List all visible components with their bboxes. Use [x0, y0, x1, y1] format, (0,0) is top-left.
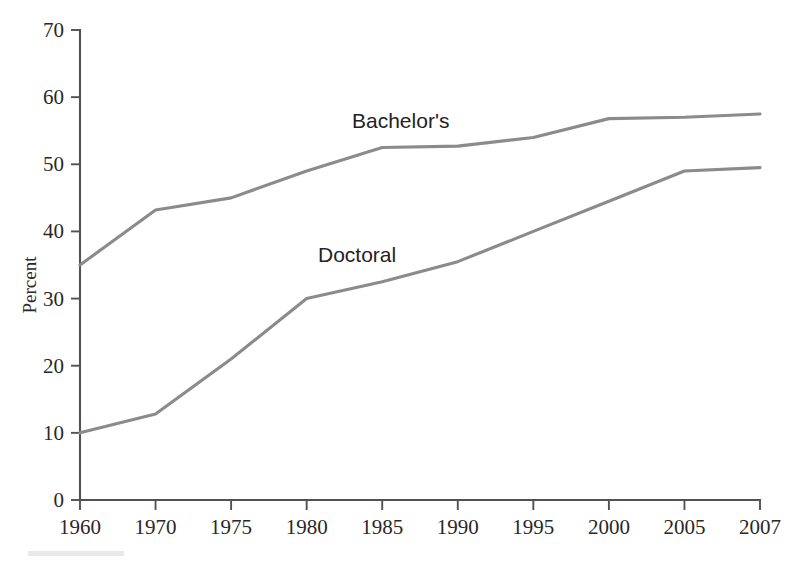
series-label-doctoral: Doctoral [318, 243, 396, 266]
chart-container: 010203040506070 196019701975198019851990… [0, 0, 786, 563]
scan-artifact [28, 551, 124, 556]
x-tick-label-1960: 1960 [59, 515, 101, 539]
y-tick-label-0: 0 [54, 488, 65, 512]
x-tick-label-1995: 1995 [512, 515, 554, 539]
series-annotations: Bachelor'sDoctoral [318, 109, 449, 266]
y-tick-label-60: 60 [43, 85, 64, 109]
y-tick-label-30: 30 [43, 287, 64, 311]
series-line-bachelor-s [80, 114, 760, 265]
line-chart: 010203040506070 196019701975198019851990… [0, 0, 786, 563]
x-tick-label-2005: 2005 [663, 515, 705, 539]
y-tick-label-10: 10 [43, 421, 64, 445]
x-tick-label-1990: 1990 [437, 515, 479, 539]
y-tick-label-70: 70 [43, 18, 64, 42]
y-axis-title: Percent [19, 256, 40, 314]
x-tick-label-2007: 2007 [739, 515, 781, 539]
y-tick-label-20: 20 [43, 354, 64, 378]
x-axis-ticks [80, 500, 760, 510]
x-tick-label-2000: 2000 [588, 515, 630, 539]
series-line-doctoral [80, 168, 760, 433]
series-label-bachelor-s: Bachelor's [352, 109, 449, 132]
x-tick-label-1985: 1985 [361, 515, 403, 539]
x-tick-label-1970: 1970 [135, 515, 177, 539]
y-axis-tick-labels: 010203040506070 [43, 18, 64, 512]
y-tick-label-40: 40 [43, 219, 64, 243]
y-tick-label-50: 50 [43, 152, 64, 176]
series-group [80, 114, 760, 433]
x-tick-label-1975: 1975 [210, 515, 252, 539]
x-axis-tick-labels: 1960197019751980198519901995200020052007 [59, 515, 781, 539]
x-tick-label-1980: 1980 [286, 515, 328, 539]
